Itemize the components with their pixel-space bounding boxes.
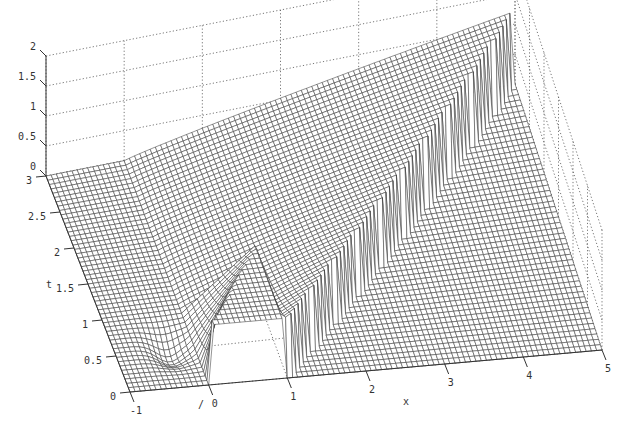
surface-plot: 00.511.5200.511.522.53-1012345 x t / <box>0 0 624 433</box>
surface-mesh <box>46 13 602 392</box>
t-tick-label: 3 <box>26 175 32 186</box>
x-axis-title: x <box>403 396 409 407</box>
z-tick-label: 2 <box>30 41 36 52</box>
t-tick-label: 1 <box>82 319 88 330</box>
t-tick-label: 2 <box>54 247 60 258</box>
t-tick-label: 0.5 <box>84 355 102 366</box>
x-tick-label: 5 <box>605 363 611 374</box>
t-tick-label: 1.5 <box>56 283 74 294</box>
stray-mark: / <box>198 399 204 410</box>
x-tick-label: 4 <box>526 370 532 381</box>
x-tick-label: -1 <box>130 405 142 416</box>
t-tick-label: 2.5 <box>28 211 46 222</box>
z-tick-label: 0 <box>30 161 36 172</box>
z-tick-label: 0.5 <box>18 131 36 142</box>
t-tick-label: 0 <box>110 391 116 402</box>
x-tick-label: 3 <box>448 377 454 388</box>
x-tick-label: 2 <box>369 384 375 395</box>
x-tick-label: 0 <box>212 398 218 409</box>
t-axis-title: t <box>46 279 52 290</box>
z-tick-label: 1.5 <box>18 71 36 82</box>
x-tick-label: 1 <box>290 391 296 402</box>
z-tick-label: 1 <box>30 101 36 112</box>
